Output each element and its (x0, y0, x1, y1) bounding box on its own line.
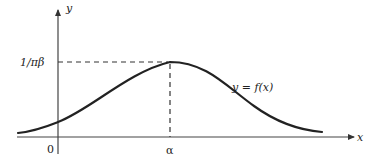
curve-label: y = f(x) (231, 81, 273, 94)
origin-tick-label: 0 (47, 143, 54, 156)
peak-value-label: 1/πβ (20, 56, 44, 69)
x-axis-label: x (357, 131, 364, 144)
chart: y x 0 α 1/πβ y = f(x) (0, 0, 371, 164)
alpha-tick-label: α (166, 144, 174, 157)
y-axis-label: y (65, 2, 73, 15)
